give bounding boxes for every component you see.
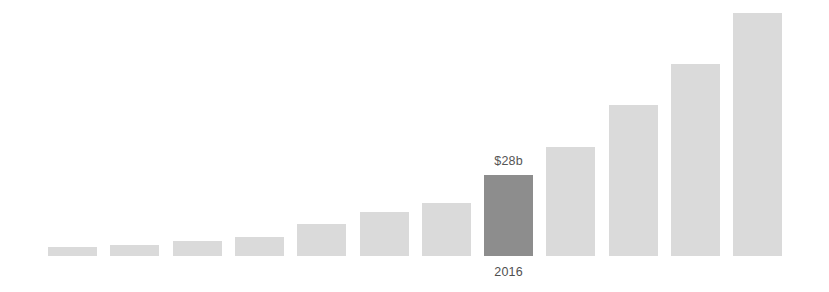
bar — [671, 64, 720, 256]
bar — [110, 245, 159, 256]
bar — [297, 224, 346, 256]
bar — [484, 175, 533, 256]
bar-chart: $28b2016 — [0, 0, 829, 292]
bar — [609, 105, 658, 256]
bar — [733, 13, 782, 256]
bar — [48, 247, 97, 256]
bar — [422, 203, 471, 256]
bar — [546, 147, 595, 256]
bar-value-label: $28b — [469, 155, 549, 168]
bar-category-label: 2016 — [469, 266, 549, 279]
bar — [173, 241, 222, 256]
bar — [235, 237, 284, 256]
bar — [360, 212, 409, 256]
plot-area: $28b2016 — [0, 0, 829, 292]
